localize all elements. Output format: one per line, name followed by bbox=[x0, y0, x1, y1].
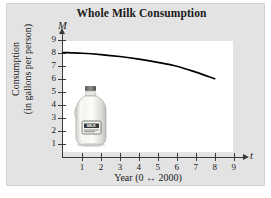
y-axis-tick-label: 7 bbox=[44, 61, 56, 70]
x-axis-tick bbox=[158, 153, 159, 161]
x-axis-title: Year (0 ↔ 2000) bbox=[63, 172, 233, 183]
whole-milk-consumption-figure: Whole Milk Consumption M t 123456789 123… bbox=[0, 0, 271, 198]
y-axis-title-line1: Consumption bbox=[10, 4, 22, 134]
x-axis-tick-label: 6 bbox=[170, 163, 184, 172]
y-axis-tick bbox=[58, 53, 66, 54]
x-axis-variable: t bbox=[250, 150, 253, 161]
x-axis-tick-label: 7 bbox=[189, 163, 203, 172]
x-axis-tick bbox=[120, 153, 121, 161]
y-axis-tick bbox=[58, 105, 66, 106]
x-axis-tick-label: 5 bbox=[151, 163, 165, 172]
y-axis-title: Consumption (in gallons per person) bbox=[10, 4, 34, 134]
y-axis-tick-label: 5 bbox=[44, 87, 56, 96]
x-axis-tick-label: 8 bbox=[208, 163, 222, 172]
y-axis-tick bbox=[58, 79, 66, 80]
y-axis-tick-label: 6 bbox=[44, 74, 56, 83]
y-axis-tick-label: 1 bbox=[44, 139, 56, 148]
x-axis-tick bbox=[196, 153, 197, 161]
x-axis-tick bbox=[215, 153, 216, 161]
x-axis-tick-label: 4 bbox=[132, 163, 146, 172]
y-axis-tick bbox=[58, 92, 66, 93]
y-axis-tick bbox=[58, 66, 66, 67]
x-axis-tick-label: 3 bbox=[113, 163, 127, 172]
x-axis-tick bbox=[177, 153, 178, 161]
x-axis-tick bbox=[101, 153, 102, 161]
page-title: Whole Milk Consumption bbox=[0, 7, 271, 19]
y-axis-tick bbox=[58, 131, 66, 132]
milk-jug-icon: MILK bbox=[72, 85, 110, 147]
x-axis-line bbox=[62, 157, 244, 158]
x-axis-arrow-icon bbox=[243, 154, 249, 160]
x-axis-tick-label: 2 bbox=[94, 163, 108, 172]
y-axis-tick-label: 8 bbox=[44, 48, 56, 57]
x-axis-tick-label: 9 bbox=[227, 163, 241, 172]
y-axis-tick-label: 4 bbox=[44, 100, 56, 109]
y-axis-tick-label: 9 bbox=[44, 35, 56, 44]
y-axis-tick bbox=[58, 144, 66, 145]
y-axis-tick-label: 3 bbox=[44, 113, 56, 122]
y-axis-variable: M bbox=[58, 20, 67, 31]
y-axis-tick bbox=[58, 40, 66, 41]
y-axis-tick bbox=[58, 118, 66, 119]
x-axis-tick bbox=[82, 153, 83, 161]
y-axis-tick-label: 2 bbox=[44, 126, 56, 135]
x-axis-tick bbox=[234, 153, 235, 161]
x-axis-tick-label: 1 bbox=[75, 163, 89, 172]
y-axis-title-line2: (in gallons per person) bbox=[22, 4, 34, 134]
x-axis-tick bbox=[139, 153, 140, 161]
milk-jug-label: MILK bbox=[87, 124, 96, 128]
